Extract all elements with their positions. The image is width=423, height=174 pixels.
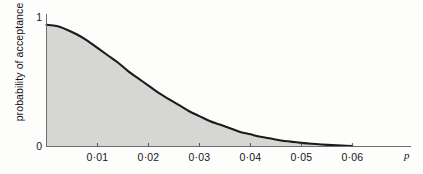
- chart-canvas: [0, 0, 423, 174]
- x-tick-label-1: 0·02: [138, 151, 160, 163]
- y-tick-label-0: 0: [36, 140, 42, 152]
- x-tick-label-5: 0·06: [341, 151, 363, 163]
- x-tick-label-0: 0·01: [87, 151, 109, 163]
- y-tick-label-1: 1: [36, 11, 42, 23]
- x-tick-label-2: 0·03: [188, 151, 210, 163]
- x-tick-label-3: 0·04: [239, 151, 261, 163]
- x-tick-label-4: 0·05: [290, 151, 312, 163]
- plot-area: [46, 14, 411, 147]
- oc-curve-figure: probability of acceptance 1 0 0·010·020·…: [0, 0, 423, 174]
- x-axis-title: p: [404, 149, 410, 161]
